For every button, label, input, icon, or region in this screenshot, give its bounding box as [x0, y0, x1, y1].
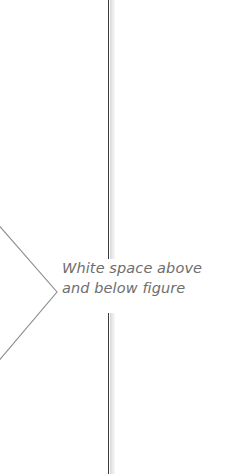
- vertical-page-edge-line-bottom: [108, 313, 109, 474]
- figure-annotation-canvas: White space above and below figure: [0, 0, 229, 474]
- chevron-right-icon: [0, 216, 62, 368]
- vertical-page-edge-shadow-top: [110, 0, 115, 259]
- annotation-caption-line-1: White space above: [62, 258, 229, 278]
- vertical-page-edge-shadow-bottom: [110, 313, 115, 474]
- vertical-page-edge-line-top: [108, 0, 109, 259]
- annotation-caption: White space above and below figure: [62, 258, 229, 298]
- annotation-caption-line-2: and below figure: [62, 278, 229, 298]
